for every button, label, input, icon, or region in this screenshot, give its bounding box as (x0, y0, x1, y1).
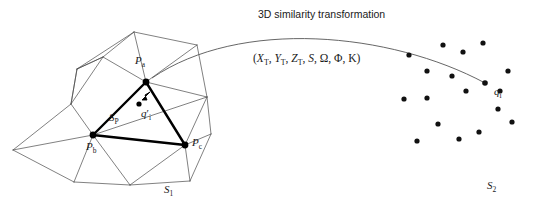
surface-label-s1: S1 (164, 184, 173, 198)
vertex-dot-pa (143, 79, 150, 86)
patch-label-sp: SP (109, 112, 119, 126)
cloud-dot (440, 42, 445, 47)
mesh-edge (13, 104, 71, 150)
vertex-label-pa: Pa (135, 55, 145, 69)
transformation-title: 3D similarity transformation (258, 8, 385, 20)
mesh-edges-group (13, 32, 211, 185)
cloud-dot (480, 40, 485, 45)
mesh-edge (13, 135, 93, 150)
cloud-dot (463, 88, 468, 93)
cloud-dot (476, 129, 481, 134)
surface-label-s2: S2 (487, 180, 496, 194)
cloud-dot (456, 136, 461, 141)
mesh-edge (130, 181, 190, 185)
vertex-label-pc: Pc (192, 137, 202, 151)
cloud-dot (401, 96, 406, 101)
similarity-transformation-diagram: 3D similarity transformation (XT, YT, ZT… (0, 0, 544, 208)
interior-point-label: q′i (141, 108, 151, 122)
interior-point-dot (136, 101, 141, 106)
cloud-dot (414, 138, 419, 143)
cloud-dot (435, 121, 440, 126)
cloud-dot (505, 68, 510, 73)
mesh-edge (71, 104, 93, 135)
mesh-edge (74, 182, 130, 185)
projection-arrow-icon (142, 92, 150, 100)
cloud-dot (495, 106, 500, 111)
mesh-edge (71, 69, 77, 104)
cloud-dot (449, 73, 454, 78)
highlighted-triangle (93, 82, 185, 145)
mesh-edge (77, 32, 134, 69)
transformation-parameters: (XT, YT, ZT, S, Ω, Φ, K) (253, 52, 360, 67)
paren-close: ) (357, 52, 361, 64)
cloud-dot-qi (482, 80, 488, 86)
cloud-point-label-qi: qi (494, 86, 502, 100)
cloud-dot (460, 49, 465, 54)
cloud-dot (424, 95, 429, 100)
mesh-edge (93, 135, 130, 185)
cloud-dot (424, 68, 429, 73)
cloud-dot (406, 52, 411, 57)
mesh-edge (134, 32, 197, 45)
mesh-edge (130, 145, 185, 185)
vertex-dot-pb (90, 132, 97, 139)
mesh-edge (185, 145, 190, 181)
mesh-edge (13, 150, 74, 182)
diagram-canvas (0, 0, 544, 208)
mesh-edge (103, 32, 134, 57)
triangle-edge-path (93, 82, 185, 145)
mesh-edge (207, 97, 211, 134)
cloud-dot (509, 119, 514, 124)
vertex-label-pb: Pb (86, 141, 96, 155)
vertex-dot-pc (182, 142, 189, 149)
